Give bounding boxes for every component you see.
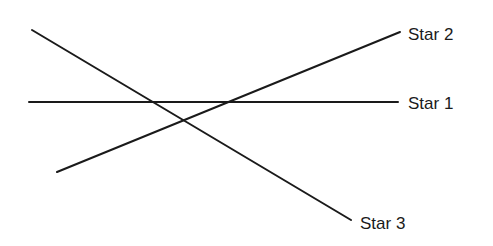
star-3-line [32,30,351,220]
star-lines-diagram: Star 1 Star 2 Star 3 [0,0,493,246]
star-1-label: Star 1 [408,94,453,113]
star-3-label: Star 3 [360,214,405,233]
star-2-label: Star 2 [408,25,453,44]
